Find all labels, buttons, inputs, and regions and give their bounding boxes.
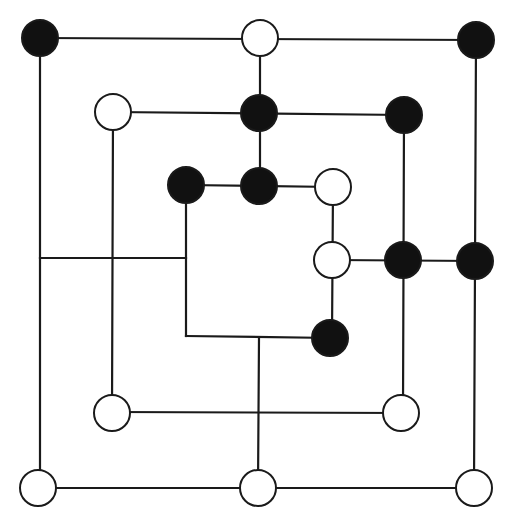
white-piece-inner-mid-right[interactable]: [314, 242, 350, 278]
white-piece-middle-bottom-right[interactable]: [383, 395, 419, 431]
white-piece-outer-bottom-mid[interactable]: [240, 470, 276, 506]
black-piece-inner-top-mid[interactable]: [241, 168, 277, 204]
white-piece-middle-bottom-left[interactable]: [94, 395, 130, 431]
black-piece-inner-bottom-right[interactable]: [312, 320, 348, 356]
empty-point-inner-mid-left[interactable]: [168, 240, 204, 276]
board-canvas: [0, 0, 519, 530]
morris-board: [0, 0, 519, 530]
black-piece-inner-top-left[interactable]: [168, 167, 204, 203]
black-piece-middle-top-right[interactable]: [386, 97, 422, 133]
black-piece-outer-mid-right[interactable]: [457, 243, 493, 279]
white-piece-outer-top-mid[interactable]: [242, 20, 278, 56]
white-piece-outer-bottom-left[interactable]: [20, 470, 56, 506]
empty-point-middle-mid-left[interactable]: [95, 240, 131, 276]
board-points: [20, 20, 494, 506]
empty-point-middle-bottom-mid[interactable]: [240, 395, 276, 431]
white-piece-inner-top-right[interactable]: [315, 169, 351, 205]
empty-point-inner-bottom-mid[interactable]: [241, 319, 277, 355]
empty-point-outer-mid-left[interactable]: [22, 240, 58, 276]
black-piece-middle-mid-right[interactable]: [385, 242, 421, 278]
black-piece-middle-top-mid[interactable]: [241, 95, 277, 131]
black-piece-outer-top-right[interactable]: [458, 22, 494, 58]
empty-point-inner-bottom-left[interactable]: [168, 318, 204, 354]
white-piece-middle-top-left[interactable]: [95, 94, 131, 130]
white-piece-outer-bottom-right[interactable]: [456, 470, 492, 506]
black-piece-outer-top-left[interactable]: [22, 20, 58, 56]
